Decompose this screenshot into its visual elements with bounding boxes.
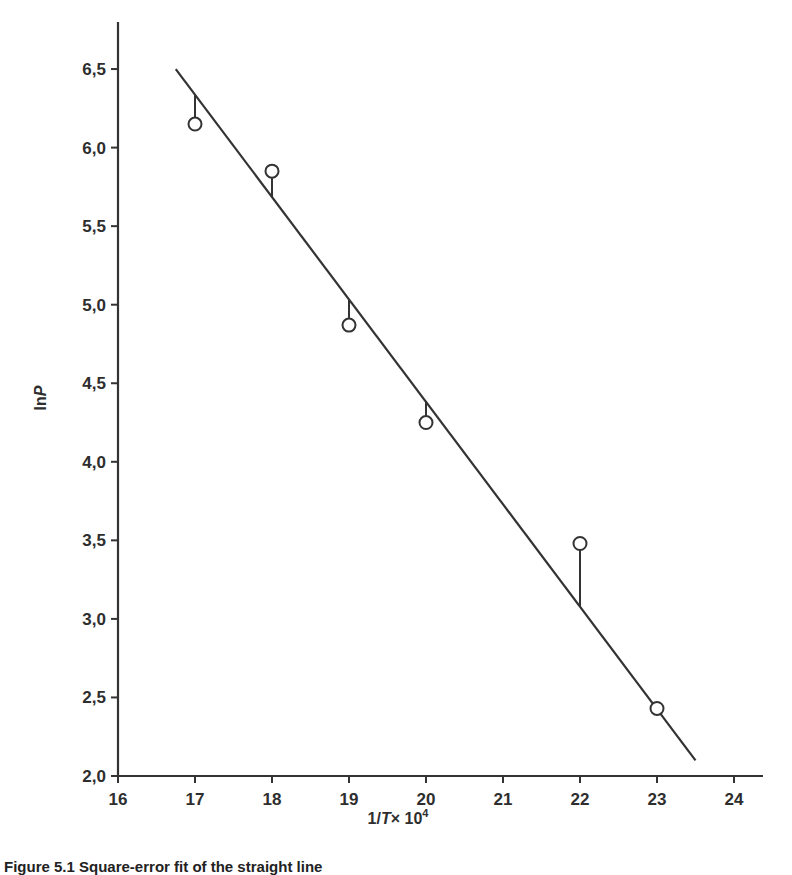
x-tick-label: 22: [571, 790, 590, 809]
y-tick-label: 2,0: [82, 767, 106, 786]
data-point-circle: [651, 702, 664, 715]
y-tick-label: 6,5: [82, 60, 106, 79]
data-points: [189, 118, 664, 715]
y-tick-label: 3,0: [82, 610, 106, 629]
y-tick-label: 6,0: [82, 139, 106, 158]
y-tick-label: 5,5: [82, 217, 106, 236]
x-tick-label: 23: [648, 790, 667, 809]
regression-line: [176, 69, 696, 760]
data-point-circle: [189, 118, 202, 131]
axes: [117, 22, 763, 777]
fit-line: [176, 69, 696, 760]
y-tick-label: 2,5: [82, 688, 106, 707]
x-tick-label: 21: [494, 790, 513, 809]
data-point-circle: [343, 319, 356, 332]
y-tick-label: 4,5: [82, 374, 106, 393]
y-axis-title: lnP: [32, 385, 49, 410]
x-axis-title: 1/T× 104: [368, 807, 430, 827]
x-tick-label: 19: [340, 790, 359, 809]
y-axis-ticks: 2,02,53,03,54,04,55,05,56,06,5: [82, 60, 118, 786]
x-tick-label: 18: [263, 790, 282, 809]
y-tick-label: 3,5: [82, 531, 106, 550]
figure-caption: Figure 5.1 Square-error fit of the strai…: [4, 858, 322, 875]
x-tick-label: 24: [725, 790, 744, 809]
x-tick-label: 16: [109, 790, 128, 809]
data-point-circle: [266, 165, 279, 178]
data-point-circle: [420, 416, 433, 429]
y-tick-label: 5,0: [82, 296, 106, 315]
y-tick-label: 4,0: [82, 453, 106, 472]
x-tick-label: 17: [186, 790, 205, 809]
data-point-circle: [574, 537, 587, 550]
x-axis-ticks: 161718192021222324: [109, 776, 744, 809]
